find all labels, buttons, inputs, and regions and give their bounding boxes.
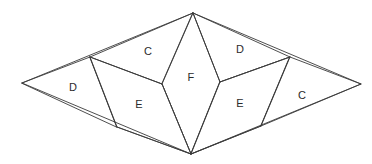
rhombus-tiling-diagram: CDDFEEC (0, 0, 372, 164)
face-f-center-label: F (188, 71, 195, 83)
face-c-top-left-label: C (144, 45, 152, 57)
face-e-lower-right-label: E (236, 97, 244, 109)
face-d-left-label: D (69, 81, 77, 93)
face-e-lower-left-label: E (135, 98, 143, 110)
face-c-right-label: C (298, 89, 306, 101)
diagram-canvas: CDDFEEC (0, 0, 372, 164)
face-d-top-right-label: D (236, 43, 244, 55)
